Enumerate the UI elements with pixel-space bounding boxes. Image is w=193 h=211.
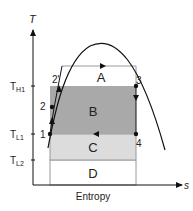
point-3-label: 3 [136, 75, 142, 86]
point-2 [50, 105, 54, 109]
point-1-label: 1 [40, 129, 46, 140]
tl1-label: TL1 [10, 129, 24, 141]
point-4-label: 4 [136, 138, 142, 149]
region-c-label: C [88, 140, 97, 155]
entropy-caption: Entropy [76, 191, 110, 202]
region-b-label: B [89, 104, 98, 119]
ts-diagram: T s Entropy TH1 TL1 TL2 1 2 2' 3 4 A B C… [0, 0, 193, 211]
point-4 [134, 132, 138, 136]
th1-label: TH1 [10, 81, 25, 93]
tl2-label: TL2 [10, 155, 24, 167]
point-2-label: 2 [40, 101, 46, 112]
region-d-label: D [88, 166, 97, 181]
s-axis-label: s [184, 180, 189, 191]
region-a-label: A [97, 70, 106, 85]
point-2prime-label: 2' [52, 74, 60, 85]
arrow-2prime-to-3-icon [100, 63, 106, 69]
t-axis-label: T [29, 13, 37, 25]
point-1 [48, 132, 52, 136]
